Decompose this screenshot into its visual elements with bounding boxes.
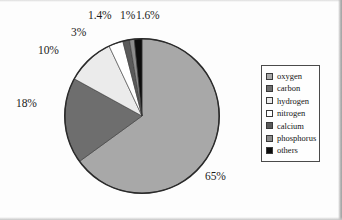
legend-label-carbon: carbon [277, 84, 300, 93]
legend-label-others: others [277, 146, 298, 155]
label-3: 3% [71, 26, 86, 38]
legend-swatch-hydrogen [266, 97, 273, 104]
pie-chart-screenshot: 65%18%10%3%1.4%1%1.6% oxygencarbonhydrog… [0, 0, 342, 220]
label-1p6: 1.6% [136, 9, 160, 21]
legend-item-carbon[interactable]: carbon [266, 82, 316, 94]
legend-item-calcium[interactable]: calcium [266, 120, 316, 132]
legend-swatch-oxygen [266, 73, 273, 80]
legend-label-phosphorus: phosphorus [277, 134, 316, 143]
legend-label-hydrogen: hydrogen [277, 97, 309, 106]
legend-swatch-carbon [266, 85, 273, 92]
page-edge-top [0, 0, 342, 2]
chart-legend: oxygencarbonhydrogennitrogencalciumphosp… [261, 65, 320, 162]
page-edge-right [338, 0, 342, 220]
legend-item-oxygen[interactable]: oxygen [266, 70, 316, 82]
label-10: 10% [38, 44, 59, 56]
legend-swatch-phosphorus [266, 135, 273, 142]
label-1p4: 1.4% [88, 9, 112, 21]
legend-item-phosphorus[interactable]: phosphorus [266, 132, 316, 144]
label-18: 18% [16, 97, 37, 109]
label-1: 1% [120, 9, 135, 21]
pie-chart-graphic [63, 37, 221, 195]
legend-item-hydrogen[interactable]: hydrogen [266, 95, 316, 107]
legend-swatch-nitrogen [266, 110, 273, 117]
legend-label-nitrogen: nitrogen [277, 109, 305, 118]
legend-swatch-others [266, 147, 273, 154]
legend-label-oxygen: oxygen [277, 72, 302, 81]
legend-item-nitrogen[interactable]: nitrogen [266, 107, 316, 119]
pie-svg [63, 37, 221, 195]
legend-item-others[interactable]: others [266, 144, 316, 156]
page-edge-bottom [0, 217, 342, 220]
legend-swatch-calcium [266, 122, 273, 129]
legend-label-calcium: calcium [277, 122, 304, 131]
label-65: 65% [205, 170, 226, 182]
